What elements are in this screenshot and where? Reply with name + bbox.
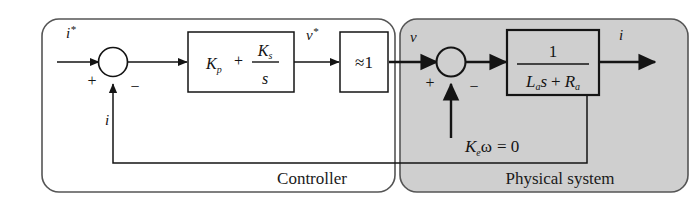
plant-numerator: 1 [549,42,558,61]
plant-sum-minus-sign: − [469,78,478,95]
label-plant-input: ν [410,29,417,45]
pi-ki-subscript: s [268,50,272,61]
label-nu-star-star: * [313,25,319,37]
pi-kp-subscript: p [216,64,222,75]
approx-unity-gain-label: ≈1 [355,53,373,72]
plant-den-resistance-sub: a [575,81,580,92]
plant-den-inductance: L [525,72,535,91]
label-disturbance: Keω= 0 [464,137,519,158]
block-diagram-svg: + − Kp + Ks s ≈1 + − 1 Las+Ra [0,0,695,211]
pi-integral-denominator: s [262,70,268,87]
block-diagram-canvas: + − Kp + Ks s ≈1 + − 1 Las+Ra [0,0,695,211]
controller-sum-minus-sign: − [130,78,139,95]
disturbance-equals-zero: = 0 [497,137,519,156]
summing-junction-plant [437,48,466,77]
summing-junction-controller [99,48,128,77]
plant-den-plus: + [551,72,561,91]
controller-sum-plus-sign: + [87,72,96,89]
pi-plus-operator: + [234,52,243,69]
plant-den-resistance: R [564,72,576,91]
disturbance-omega: ω [481,137,492,156]
caption-physical-system: Physical system [505,169,614,188]
label-feedback-current: i [105,112,109,128]
plant-sum-plus-sign: + [425,74,434,91]
plant-denominator: Las+Ra [525,72,580,92]
caption-controller: Controller [277,169,347,188]
plant-den-s: s [540,72,547,91]
label-reference-star: * [70,23,76,35]
label-plant-output: i [619,27,623,43]
